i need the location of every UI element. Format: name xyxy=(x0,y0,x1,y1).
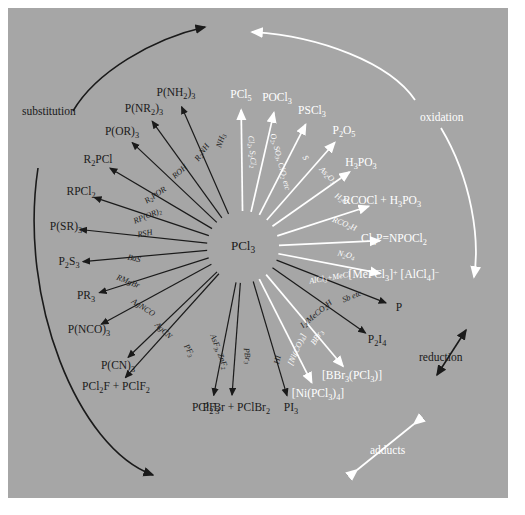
product-label-p2o5: P2O5 xyxy=(333,125,356,139)
product-label-p: P xyxy=(396,302,402,314)
oxidation-arc-top xyxy=(252,32,415,100)
mode-label-substitution: substitution xyxy=(22,106,76,118)
mode-label-reduction: reduction xyxy=(419,352,462,364)
reaction-arrow-pclf xyxy=(125,274,219,378)
substitution-bottom-arc xyxy=(34,168,153,475)
reaction-arrow-pi3 xyxy=(253,282,287,396)
product-label-psr3: P(SR)3 xyxy=(50,221,82,235)
reagent-label-pcl5: Cl2, S2Cl2 xyxy=(245,135,257,168)
product-label-pi3: PI3 xyxy=(284,402,298,416)
product-label-r2pcl: R2PCl xyxy=(83,154,112,168)
reaction-arrow-p2s3 xyxy=(83,250,207,261)
product-label-npocl2: Cl3P=NPOCl2 xyxy=(361,233,427,247)
product-label-mepcl3: [MePCl3]+ [AlCl4]− xyxy=(349,269,440,283)
product-label-pnh2: P(NH2)3 xyxy=(157,87,196,101)
oxidation-arc-bottom xyxy=(441,128,476,277)
product-label-pnco: P(NCO)3 xyxy=(68,324,110,338)
reaction-arrow-pbr xyxy=(232,283,240,395)
product-label-pscl3: PSCl3 xyxy=(298,105,326,119)
product-label-p2s3: P2S3 xyxy=(58,256,79,270)
product-label-pnr2: P(NR2)3 xyxy=(125,103,163,117)
product-label-bbr3: [BBr3(PCl3)] xyxy=(322,370,382,384)
product-label-rcocl: RCOCl + H3PO3 xyxy=(343,195,421,209)
reaction-arrow-pnh2 xyxy=(182,107,229,214)
product-label-pocl3: POCl3 xyxy=(262,92,292,106)
reagent-label-pi3: HI xyxy=(273,355,283,365)
pcl3-reaction-diagram: PCl3 substitutionoxidationreductionadduc… xyxy=(0,0,525,515)
center-species-label: PCl3 xyxy=(231,239,255,255)
product-label-pcl5: PCl5 xyxy=(230,89,251,103)
product-label-rpcl2: RPCl2 xyxy=(66,186,95,200)
mode-label-adducts: adducts xyxy=(370,445,405,457)
reagent-label-pbr: PBr3 xyxy=(240,347,251,364)
product-label-por: P(OR)3 xyxy=(105,126,139,140)
reaction-arrow-nipcl3 xyxy=(259,279,311,382)
product-label-pcn: P(CN)3 xyxy=(101,360,135,374)
product-label-pr3: PR3 xyxy=(77,290,95,304)
product-label-pbr: PCl2Br + PClBr2 xyxy=(192,402,270,416)
reaction-arrow-pcl5 xyxy=(241,110,242,211)
product-label-p2i4: P2I4 xyxy=(368,334,387,348)
mode-label-oxidation: oxidation xyxy=(420,112,463,124)
product-label-h3po3: H3PO3 xyxy=(345,157,376,171)
product-label-pclf: PCl2F + PClF2 xyxy=(82,381,150,395)
product-label-nipcl3: [Ni(PCl3)4] xyxy=(292,388,344,402)
